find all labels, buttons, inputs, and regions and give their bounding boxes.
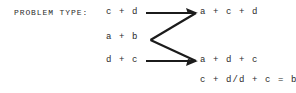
arrowhead-bottom-icon	[186, 59, 198, 66]
equation-line: c + d/d + c = b	[200, 75, 296, 85]
left-term-1: c + d	[106, 7, 139, 17]
right-term-2: a + d + c	[200, 55, 259, 65]
left-term-3: d + c	[106, 55, 139, 65]
connector-lower-diagonal	[151, 40, 197, 61]
connector-upper-diagonal	[151, 13, 197, 40]
arrowhead-top-icon	[186, 8, 198, 14]
right-term-1: a + c + d	[200, 7, 259, 17]
problem-type-diagram: PROBLEM TYPE: c + d a + b d + c a + c + …	[0, 0, 296, 93]
left-term-2: a + b	[106, 32, 139, 42]
problem-type-label: PROBLEM TYPE:	[14, 8, 88, 17]
